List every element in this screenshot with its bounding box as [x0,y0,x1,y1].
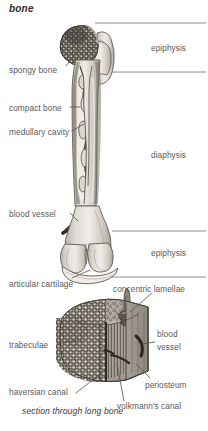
periosteum-face [126,301,148,380]
callout-blood-vessel-femur: blood vessel [9,210,56,220]
section-block [56,288,152,382]
region-label-epiphysis-distal: epiphysis [151,249,186,259]
callout-articular-cartilage: articular cartilage [9,280,73,290]
callout-medullary-cavity: medullary cavity [9,128,69,138]
callout-periosteum: periosteum [145,381,187,391]
callout-concentric-lamellae: concentric lamellae [113,285,185,295]
region-label-diaphysis: diaphysis [151,151,186,161]
callout-blood-vessel-section-line1: blood [157,330,178,340]
callout-trabeculae: trabeculae [9,341,48,351]
femur-diagram [58,22,118,284]
figure-canvas: bone [0,0,208,431]
callout-blood-vessel-section-line2: vessel [157,343,181,353]
callout-volkmanns-canal: volkmann's canal [117,402,181,412]
figure-caption: section through long bone [22,406,123,416]
trabeculae-zone [56,298,110,382]
callout-compact-bone: compact bone [9,104,62,114]
callout-spongy-bone: spongy bone [9,66,57,76]
region-label-epiphysis-proximal: epiphysis [151,44,186,54]
lateral-condyle [88,243,114,272]
callout-haversian-canal: haversian canal [9,388,68,398]
